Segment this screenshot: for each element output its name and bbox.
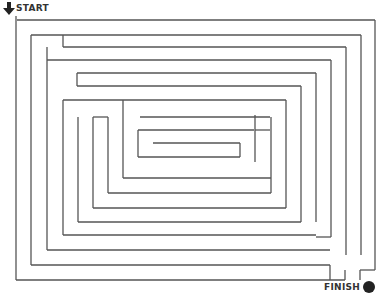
finish-label: FINISH [324,282,360,292]
maze-walls [0,0,379,294]
down-arrow-icon [3,2,15,16]
finish-dot-icon [363,281,375,293]
start-label: START [16,3,49,13]
